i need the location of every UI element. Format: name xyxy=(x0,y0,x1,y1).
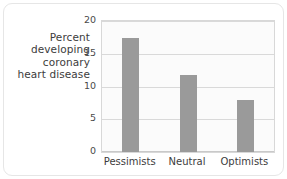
plot-inner xyxy=(102,21,274,152)
y-tick-label-15: 15 xyxy=(70,48,96,58)
plot-area xyxy=(101,20,275,153)
gridline-20 xyxy=(102,21,274,22)
figure-card: Percent developing coronary heart diseas… xyxy=(3,3,284,176)
y-axis-label-line-4: heart disease xyxy=(10,68,90,80)
y-axis-label-line-1: Percent xyxy=(10,31,90,43)
bar-pessimists xyxy=(122,38,139,152)
y-tick-label-10: 10 xyxy=(70,81,96,91)
y-tick-label-20: 20 xyxy=(70,15,96,25)
bar-optimists xyxy=(237,100,254,152)
y-axis-label-line-3: coronary xyxy=(10,56,90,68)
y-tick-label-0: 0 xyxy=(70,146,96,156)
x-tick-label-optimists: Optimists xyxy=(199,156,287,167)
bar-neutral xyxy=(180,75,197,152)
y-tick-label-5: 5 xyxy=(70,113,96,123)
